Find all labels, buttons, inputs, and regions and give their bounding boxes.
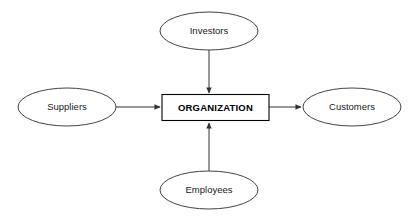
node-organization[interactable]: ORGANIZATION [162, 95, 269, 121]
node-suppliers[interactable]: Suppliers [18, 88, 116, 126]
node-investors[interactable]: Investors [160, 12, 258, 50]
diagram-canvas: Investors Suppliers Customers Employees … [0, 0, 419, 220]
node-organization-label: ORGANIZATION [178, 102, 253, 113]
node-suppliers-label: Suppliers [47, 101, 87, 112]
node-customers[interactable]: Customers [303, 88, 401, 126]
node-employees[interactable]: Employees [160, 171, 258, 209]
stakeholder-diagram: Investors Suppliers Customers Employees … [0, 0, 419, 220]
node-employees-label: Employees [186, 184, 233, 195]
node-customers-label: Customers [329, 101, 375, 112]
node-investors-label: Investors [190, 25, 229, 36]
